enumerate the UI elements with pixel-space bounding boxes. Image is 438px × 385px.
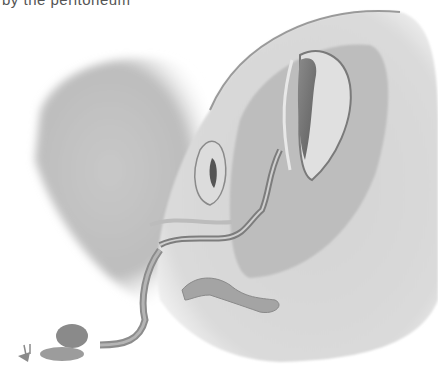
anatomical-illustration	[0, 0, 438, 385]
illustration-canvas: by the peritoneum	[0, 0, 438, 385]
coiled-end	[18, 324, 88, 362]
